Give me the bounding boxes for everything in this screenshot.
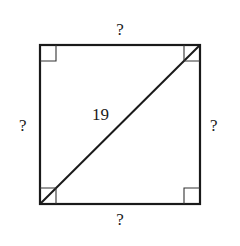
bottom-side-label: ? xyxy=(116,211,124,228)
diagonal-line xyxy=(40,45,200,204)
left-side-label: ? xyxy=(19,117,27,134)
top-side-label: ? xyxy=(116,21,124,38)
diagonal-label: 19 xyxy=(92,106,109,123)
right-angle-mark-top-left xyxy=(40,45,56,61)
right-side-label: ? xyxy=(210,117,218,134)
right-angle-mark-bottom-right xyxy=(184,188,200,204)
